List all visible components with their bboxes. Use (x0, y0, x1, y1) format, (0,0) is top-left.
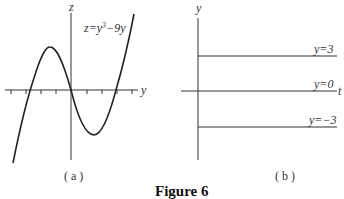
panel-a-y-axis-label: y (140, 83, 147, 97)
cubic-curve (13, 14, 134, 163)
panel-b: y t y=3 y=0 y=−3 ( b ) (181, 1, 342, 183)
panel-a: z y z=y3−9y ( a ) (5, 0, 147, 183)
figure-6: z y z=y3−9y ( a ) y t y=3 y=0 y=−3 ( b )… (0, 0, 344, 199)
curve-equation-label: z=y3−9y (83, 21, 126, 35)
label-y-0: y=0 (313, 77, 333, 91)
panel-a-z-axis-label: z (68, 0, 74, 14)
label-y-neg3: y=−3 (308, 113, 337, 127)
figure-title: Figure 6 (155, 183, 209, 199)
panel-a-caption: ( a ) (64, 169, 83, 183)
panel-b-t-axis-label: t (338, 84, 342, 98)
panel-b-caption: ( b ) (275, 169, 295, 183)
panel-b-y-axis-label: y (195, 1, 202, 15)
label-y-3: y=3 (313, 42, 333, 56)
